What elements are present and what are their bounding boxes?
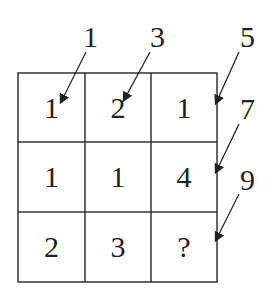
grid-cell-r2c2: 1 [85,142,151,212]
pointer-label-5: 5 [240,22,255,52]
arrow-5 [216,52,239,103]
grid-cell-r1c3: 1 [151,73,217,142]
grid-cell-r2c3: 4 [151,142,217,212]
pointer-label-3: 3 [150,22,165,52]
grid-cell-r2c1: 1 [18,142,85,212]
arrow-9 [216,194,239,240]
grid-cell-r1c1: 1 [18,73,85,142]
number-grid-puzzle: 1 2 1 1 1 4 2 3 ? 1 3 5 7 9 [0,0,279,290]
pointer-label-7: 7 [240,94,255,124]
grid-cell-r3c3-unknown: ? [151,212,217,282]
arrow-7 [216,124,239,172]
grid-cell-r3c1: 2 [18,212,85,282]
pointer-label-1: 1 [83,22,98,52]
grid-cell-r3c2: 3 [85,212,151,282]
grid-cell-r1c2: 2 [85,73,151,142]
pointer-label-9: 9 [240,165,255,195]
